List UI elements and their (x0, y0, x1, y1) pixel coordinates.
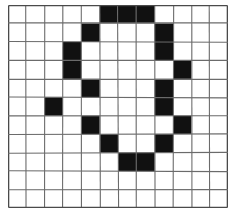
grid-cell-empty (45, 23, 64, 42)
grid-cell-empty (118, 23, 137, 42)
grid-cell-empty (191, 97, 210, 116)
grid-cell-empty (210, 134, 228, 153)
grid-cell-empty (26, 5, 45, 24)
grid-cell-empty (8, 116, 27, 135)
grid-cell-empty (8, 5, 27, 24)
grid-cell-empty (81, 134, 100, 153)
grid-cell-filled (63, 60, 82, 79)
grid-cell-empty (8, 134, 27, 153)
grid-cell-empty (210, 79, 228, 98)
grid-cell-empty (173, 5, 192, 24)
grid-cell-empty (63, 23, 82, 42)
grid-cell-filled (155, 79, 174, 98)
grid-cell-empty (136, 171, 155, 190)
grid-cell-empty (155, 153, 174, 172)
grid-cell-empty (8, 190, 27, 208)
pixel-grid-figure (8, 5, 228, 208)
grid-cell-empty (210, 153, 228, 172)
grid-cell-empty (100, 79, 119, 98)
grid-cell-empty (26, 116, 45, 135)
grid-cell-filled (155, 134, 174, 153)
grid-cell-empty (26, 190, 45, 208)
grid-cell-empty (26, 134, 45, 153)
grid-cell-empty (81, 153, 100, 172)
grid-cell-empty (81, 171, 100, 190)
grid-cell-empty (26, 171, 45, 190)
grid-cell-empty (210, 116, 228, 135)
figure-canvas (0, 0, 245, 223)
grid-cell-empty (191, 60, 210, 79)
grid-cell-empty (136, 190, 155, 208)
grid-cell-empty (81, 190, 100, 208)
grid-horizontal-line (9, 41, 228, 42)
grid-cell-empty (81, 60, 100, 79)
grid-cell-empty (118, 42, 137, 61)
grid-cell-empty (136, 116, 155, 135)
grid-cell-empty (191, 190, 210, 208)
grid-cell-empty (100, 116, 119, 135)
grid-cell-filled (81, 79, 100, 98)
grid-horizontal-line (9, 134, 228, 135)
grid-cell-filled (173, 116, 192, 135)
grid-cell-filled (118, 153, 137, 172)
grid-cell-empty (100, 153, 119, 172)
grid-cell-empty (63, 190, 82, 208)
grid-cell-empty (45, 171, 64, 190)
grid-cell-empty (100, 23, 119, 42)
grid-cell-empty (81, 97, 100, 116)
grid-cell-empty (8, 60, 27, 79)
grid-cell-empty (100, 190, 119, 208)
grid-cell-filled (155, 97, 174, 116)
grid-cell-empty (155, 116, 174, 135)
grid-cell-filled (155, 23, 174, 42)
grid-cell-empty (26, 79, 45, 98)
grid-cell-empty (136, 97, 155, 116)
grid-cell-filled (100, 134, 119, 153)
grid-cell-empty (118, 116, 137, 135)
grid-cell-empty (173, 97, 192, 116)
grid-cell-empty (118, 134, 137, 153)
grid-cell-empty (210, 190, 228, 208)
grid-cell-empty (8, 97, 27, 116)
grid-cell-empty (191, 116, 210, 135)
grid-cell-empty (45, 5, 64, 24)
grid-cell-empty (26, 97, 45, 116)
grid-cell-filled (136, 5, 155, 24)
grid-cell-empty (118, 190, 137, 208)
grid-cell-filled (136, 153, 155, 172)
grid-cell-empty (210, 5, 228, 24)
grid-cell-empty (45, 79, 64, 98)
grid-cell-empty (155, 5, 174, 24)
grid-cell-empty (173, 79, 192, 98)
grid-cell-empty (155, 60, 174, 79)
grid-cell-empty (155, 171, 174, 190)
grid-cell-empty (63, 134, 82, 153)
grid-svg (8, 5, 228, 208)
grid-cell-empty (8, 171, 27, 190)
grid-cell-empty (100, 97, 119, 116)
grid-cell-empty (191, 171, 210, 190)
grid-cell-empty (191, 23, 210, 42)
grid-cell-empty (81, 5, 100, 24)
grid-cell-empty (118, 60, 137, 79)
grid-cell-empty (45, 42, 64, 61)
grid-cell-empty (100, 42, 119, 61)
grid-cell-empty (26, 23, 45, 42)
grid-cell-empty (136, 134, 155, 153)
grid-cell-empty (173, 134, 192, 153)
grid-cell-empty (100, 60, 119, 79)
grid-cell-empty (63, 153, 82, 172)
grid-cell-empty (210, 23, 228, 42)
grid-cell-empty (26, 153, 45, 172)
grid-cell-empty (118, 171, 137, 190)
grid-cell-empty (63, 116, 82, 135)
grid-cell-empty (8, 79, 27, 98)
grid-cell-empty (63, 5, 82, 24)
grid-cell-empty (191, 153, 210, 172)
grid-cell-filled (63, 42, 82, 61)
grid-cell-empty (100, 171, 119, 190)
grid-cell-empty (136, 60, 155, 79)
grid-cell-empty (173, 190, 192, 208)
grid-cell-empty (136, 42, 155, 61)
grid-cell-empty (63, 97, 82, 116)
